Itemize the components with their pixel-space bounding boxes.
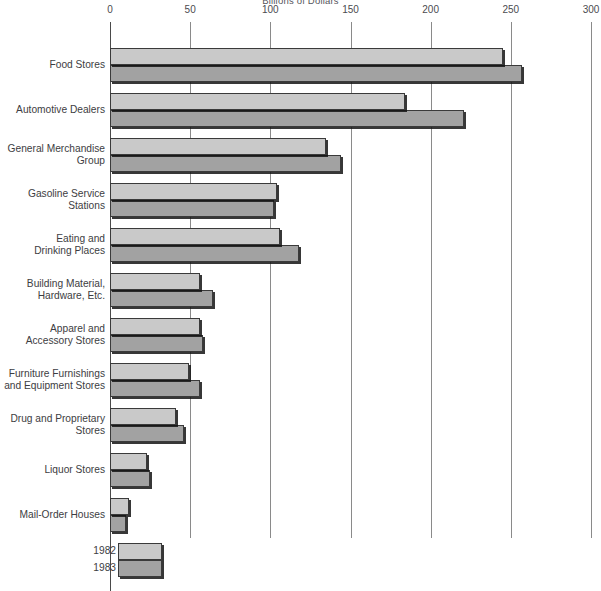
- x-tick-label-0: 0: [107, 4, 113, 15]
- x-tick-label-50: 50: [185, 4, 196, 15]
- category-label-5: Building Material, Hardware, Etc.: [27, 278, 105, 303]
- x-tick-label-150: 150: [342, 4, 359, 15]
- bar-1982-1: [110, 93, 405, 110]
- bar-1982-6: [110, 318, 200, 335]
- bar-1982-8: [110, 408, 176, 425]
- category-label-3: Gasoline Service Stations: [28, 188, 105, 213]
- retail-sales-bar-chart: Billions of Dollars 1982 1983 0501001502…: [0, 0, 601, 591]
- category-label-6: Apparel and Accessory Stores: [26, 323, 105, 348]
- bar-1983-10: [110, 515, 126, 532]
- bar-1982-3: [110, 183, 277, 200]
- bar-1983-0: [110, 65, 522, 82]
- bar-1983-6: [110, 335, 203, 352]
- legend-label-1982: 1982: [93, 545, 116, 556]
- plot-area: [110, 22, 591, 538]
- bar-1983-3: [110, 200, 274, 217]
- bar-1982-7: [110, 363, 189, 380]
- bar-1983-9: [110, 470, 150, 487]
- x-tick-label-250: 250: [502, 4, 519, 15]
- bar-1983-7: [110, 380, 200, 397]
- legend-swatch-1982: [118, 543, 162, 560]
- category-label-1: Automotive Dealers: [16, 104, 105, 117]
- x-tick-label-100: 100: [262, 4, 279, 15]
- legend-swatch-1983: [118, 560, 162, 577]
- bar-1982-4: [110, 228, 280, 245]
- legend-label-1983: 1983: [93, 562, 116, 573]
- category-label-0: Food Stores: [50, 59, 106, 72]
- bar-1983-8: [110, 425, 184, 442]
- category-label-10: Mail-Order Houses: [20, 509, 106, 522]
- category-label-7: Furniture Furnishings and Equipment Stor…: [4, 368, 105, 393]
- x-tick-label-200: 200: [422, 4, 439, 15]
- bar-1982-2: [110, 138, 326, 155]
- category-label-9: Liquor Stores: [44, 464, 105, 477]
- gridline-300: [591, 22, 592, 538]
- bar-1983-1: [110, 110, 464, 127]
- bar-1982-10: [110, 498, 129, 515]
- gridline-200: [431, 22, 432, 538]
- bar-1982-9: [110, 453, 147, 470]
- bar-1983-5: [110, 290, 213, 307]
- bar-1983-2: [110, 155, 341, 172]
- category-label-4: Eating and Drinking Places: [34, 233, 105, 258]
- x-tick-label-300: 300: [583, 4, 600, 15]
- category-label-2: General Merchandise Group: [8, 143, 105, 168]
- bar-1983-4: [110, 245, 299, 262]
- category-label-8: Drug and Proprietary Stores: [10, 413, 105, 438]
- gridline-250: [511, 22, 512, 538]
- bar-1982-5: [110, 273, 200, 290]
- bar-1982-0: [110, 48, 503, 65]
